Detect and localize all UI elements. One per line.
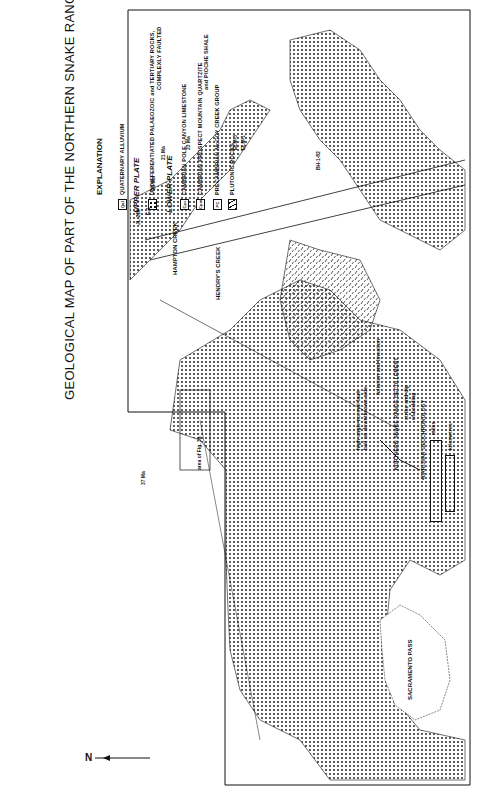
legend-heading: EXPLANATION xyxy=(95,138,104,195)
legend-item-qal: QalQUATERNARY ALLUVIUM xyxy=(118,123,127,210)
label-21ma: 21 Ma xyxy=(160,146,166,160)
legend-label: QUATERNARY ALLUVIUM xyxy=(119,123,125,195)
legend-label: PRECAMBRIAN McCOY CREEK GROUP xyxy=(214,84,220,195)
legend-fault2: ball on downthrown side xyxy=(362,387,368,450)
label-elm3: ELM-3 xyxy=(232,135,238,150)
pc-swatch: PC xyxy=(213,199,222,210)
label-37ma: 37 Ma xyxy=(140,471,146,485)
legend-geochron: 40AR/39AR GEOCHRONOLOGY xyxy=(420,400,426,480)
scale-bar-km xyxy=(445,455,455,512)
label-hendrys-creek: HENDRY'S CREEK xyxy=(215,247,221,300)
cpc-swatch: Cpc xyxy=(180,199,189,210)
legend-label-cont: and PIOCHE SHALE xyxy=(203,34,209,90)
legend-item-pc: PCPRECAMBRIAN McCOY CREEK GROUP xyxy=(213,84,222,210)
label-23ma-b: 23 Ma xyxy=(185,136,191,150)
north-arrow-label: N xyxy=(85,752,92,763)
cpm-swatch: Cpm xyxy=(196,199,205,210)
dash-swatch xyxy=(228,199,237,210)
qal-swatch: Qal xyxy=(118,199,127,210)
label-jl218: JL-218 xyxy=(135,209,141,225)
legend-section-lower: LOWER PLATE xyxy=(165,155,174,213)
legend-bedding2: of bedding xyxy=(410,392,416,420)
legend-bedding: strike and dip xyxy=(403,385,409,420)
label-23ma: 23 Ma xyxy=(150,176,156,190)
legend-label: PLUTONIC ROCKS xyxy=(229,143,235,195)
scale-bar xyxy=(430,440,442,522)
legend-label-cont: COMPLEXLY FAULTED xyxy=(156,27,162,91)
label-area-fig: area of Fig. 3a xyxy=(196,436,202,470)
label-bh182: BH-1-82 xyxy=(315,151,321,170)
map-title: GEOLOGICAL MAP OF PART OF THE NORTHERN S… xyxy=(62,0,77,400)
legend-decollement: NORTHERN SNAKE RANGE DECOLLEMENT xyxy=(393,357,399,470)
label-hampton-creek: HAMPTON CREEK xyxy=(172,222,178,275)
legend-section-upper: UPPER PLATE xyxy=(132,158,141,213)
legend-foliation: foliation and lineation xyxy=(375,339,381,395)
legend-label: UNDIFFERENTIATED PALAEOZOIC and TERTIARY… xyxy=(149,31,155,195)
legend-item-plutonic: PLUTONIC ROCKS xyxy=(228,143,237,210)
scale-miles: miles xyxy=(430,421,436,435)
label-sacramento-pass: SACRAMENTO PASS xyxy=(407,640,413,700)
label-e1: E-1 xyxy=(145,207,151,215)
label-elm1: ELM-1 xyxy=(240,135,246,150)
legend-fault: high-angle normal fault xyxy=(355,390,361,450)
scale-km: kilometres xyxy=(447,423,453,450)
